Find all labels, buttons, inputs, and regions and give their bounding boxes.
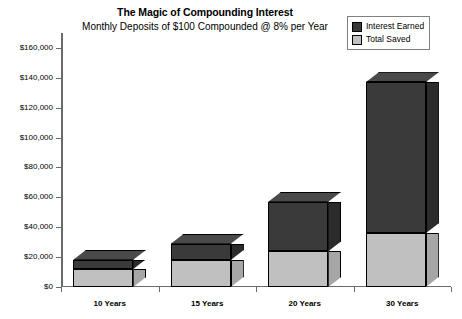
x-tick — [61, 287, 62, 292]
x-axis-label: 10 Years — [94, 299, 126, 308]
bar-top-face — [268, 192, 341, 202]
legend-swatch-interest-earned — [352, 22, 362, 32]
bar-side-interest — [426, 82, 439, 233]
bar-segment-total-saved — [366, 233, 426, 287]
bar-side-interest — [328, 202, 341, 251]
x-axis-label: 15 Years — [191, 299, 223, 308]
y-tick-label: $140,000 — [20, 74, 53, 82]
bar-segment-interest-earned — [171, 244, 231, 260]
bar-segment-total-saved — [171, 260, 231, 287]
y-tick-label: $40,000 — [24, 223, 53, 231]
bar-10-years — [73, 250, 146, 287]
y-tick-label: $20,000 — [24, 253, 53, 261]
bar-side-saved — [231, 260, 244, 287]
y-axis-line — [61, 33, 63, 287]
x-tick — [256, 287, 257, 292]
plot-area: $0$20,000$40,000$60,000$80,000$100,000$1… — [61, 33, 451, 287]
y-tick-label: $60,000 — [24, 193, 53, 201]
title-block: The Magic of Compounding Interest Monthl… — [60, 6, 350, 34]
y-tick — [56, 48, 61, 49]
y-tick-label: $100,000 — [20, 134, 53, 142]
bar-top-face — [73, 250, 146, 260]
bar-segment-interest-earned — [268, 202, 328, 251]
x-tick — [159, 287, 160, 292]
bar-20-years — [268, 192, 341, 287]
bar-15-years — [171, 234, 244, 287]
bar-side-interest — [231, 244, 244, 260]
y-tick-label: $0 — [44, 283, 53, 291]
bar-segment-interest-earned — [366, 82, 426, 233]
chart-title: The Magic of Compounding Interest — [60, 6, 350, 19]
y-tick — [56, 108, 61, 109]
x-tick — [354, 287, 355, 292]
y-tick — [56, 167, 61, 168]
x-axis-label: 20 Years — [289, 299, 321, 308]
bar-side-saved — [133, 269, 146, 287]
y-tick-label: $80,000 — [24, 163, 53, 171]
y-tick — [56, 138, 61, 139]
y-tick — [56, 78, 61, 79]
legend-label-interest-earned: Interest Earned — [366, 22, 424, 31]
bar-top-face — [171, 234, 244, 244]
chart-subtitle: Monthly Deposits of $100 Compounded @ 8%… — [60, 20, 350, 34]
bar-segment-interest-earned — [73, 260, 133, 269]
y-tick — [56, 227, 61, 228]
y-tick — [56, 257, 61, 258]
x-tick — [451, 287, 452, 292]
bar-side-saved — [426, 233, 439, 287]
legend-item-interest-earned: Interest Earned — [352, 20, 424, 33]
bar-side-saved — [328, 251, 341, 287]
y-tick — [56, 197, 61, 198]
bar-segment-total-saved — [268, 251, 328, 287]
y-tick-label: $160,000 — [20, 44, 53, 52]
bar-top-face — [366, 72, 439, 82]
bar-30-years — [366, 72, 439, 287]
y-tick-label: $120,000 — [20, 104, 53, 112]
bar-side-interest — [133, 260, 146, 269]
x-axis-label: 30 Years — [386, 299, 418, 308]
compounding-interest-chart: The Magic of Compounding Interest Monthl… — [0, 0, 462, 319]
bar-segment-total-saved — [73, 269, 133, 287]
